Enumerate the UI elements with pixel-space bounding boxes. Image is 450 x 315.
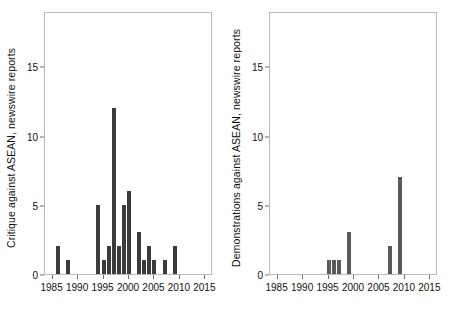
- y-tick-label: 0: [32, 270, 38, 281]
- x-tick-label: 2010: [168, 282, 190, 293]
- y-tick-label: 5: [32, 200, 38, 211]
- y-tick-label: 15: [252, 62, 263, 73]
- x-tick-label: 1995: [91, 282, 113, 293]
- x-tick-mark: [179, 275, 180, 279]
- x-tick-mark: [404, 275, 405, 279]
- x-tick-mark: [128, 275, 129, 279]
- panel-demonstrations: Demonstrations against ASEAN, newswire r…: [225, 0, 450, 315]
- bar: [56, 246, 60, 274]
- x-tick-label: 1990: [291, 282, 313, 293]
- figure: Critique against ASEAN, newswire reports…: [0, 0, 450, 315]
- bar: [332, 260, 336, 274]
- y-axis-ticks-right: 051015: [225, 12, 269, 275]
- bar: [173, 246, 177, 274]
- y-tick-label: 0: [257, 270, 263, 281]
- bar: [137, 232, 141, 274]
- x-tick-mark: [302, 275, 303, 279]
- x-tick-label: 1990: [66, 282, 88, 293]
- plot-area-right: [270, 13, 436, 274]
- bar: [96, 205, 100, 274]
- bar: [117, 246, 121, 274]
- x-tick-label: 2005: [142, 282, 164, 293]
- y-tick-label: 10: [252, 131, 263, 142]
- plot-frame-left: [44, 12, 212, 275]
- x-tick-mark: [277, 275, 278, 279]
- x-tick-label: 2000: [342, 282, 364, 293]
- x-tick-mark: [204, 275, 205, 279]
- bar: [337, 260, 341, 274]
- bar: [147, 246, 151, 274]
- x-tick-mark: [153, 275, 154, 279]
- bar: [102, 260, 106, 274]
- x-tick-mark: [353, 275, 354, 279]
- x-tick-label: 2005: [367, 282, 389, 293]
- plot-area-left: [45, 13, 211, 274]
- x-tick-mark: [77, 275, 78, 279]
- x-tick-mark: [52, 275, 53, 279]
- bar: [398, 177, 402, 274]
- x-tick-label: 2015: [418, 282, 440, 293]
- y-tick-label: 10: [27, 131, 38, 142]
- bar: [122, 205, 126, 274]
- x-tick-label: 2015: [193, 282, 215, 293]
- bar: [112, 108, 116, 274]
- bar: [347, 232, 351, 274]
- x-axis-ticks-left: 1985199019952000200520102015: [44, 275, 212, 311]
- bar: [107, 246, 111, 274]
- bar: [388, 246, 392, 274]
- x-tick-mark: [378, 275, 379, 279]
- bar: [127, 191, 131, 274]
- bar: [66, 260, 70, 274]
- bar: [152, 260, 156, 274]
- y-axis-ticks-left: 051015: [0, 12, 44, 275]
- x-tick-mark: [103, 275, 104, 279]
- x-tick-label: 2000: [117, 282, 139, 293]
- y-tick-label: 15: [27, 62, 38, 73]
- x-tick-mark: [429, 275, 430, 279]
- bar: [163, 260, 167, 274]
- y-tick-label: 5: [257, 200, 263, 211]
- x-tick-label: 2010: [393, 282, 415, 293]
- x-axis-ticks-right: 1985199019952000200520102015: [269, 275, 437, 311]
- bar: [142, 260, 146, 274]
- x-tick-mark: [328, 275, 329, 279]
- x-tick-label: 1995: [316, 282, 338, 293]
- bar: [327, 260, 331, 274]
- plot-frame-right: [269, 12, 437, 275]
- x-tick-label: 1985: [41, 282, 63, 293]
- x-tick-label: 1985: [266, 282, 288, 293]
- panel-critique: Critique against ASEAN, newswire reports…: [0, 0, 225, 315]
